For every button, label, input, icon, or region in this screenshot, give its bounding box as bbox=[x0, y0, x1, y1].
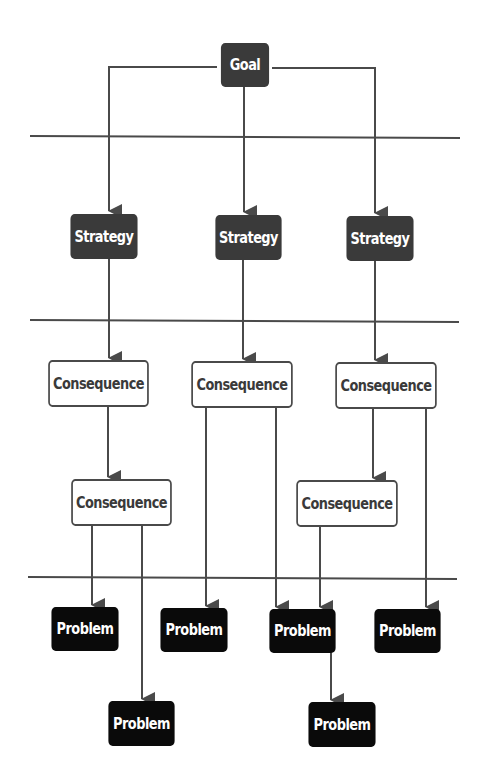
problem-node-1: Problem bbox=[51, 607, 118, 651]
level-separator-2 bbox=[30, 320, 459, 322]
strategy-node-3: Strategy bbox=[346, 216, 413, 261]
consequence-node-3b: Consequence bbox=[296, 480, 397, 527]
problem-node-6: Problem bbox=[308, 702, 375, 747]
problem-node-2: Problem bbox=[160, 608, 227, 652]
problem-node-5: Problem bbox=[108, 701, 174, 746]
problem-node-3: Problem bbox=[269, 609, 335, 653]
consequence-node-1b: Consequence bbox=[71, 479, 172, 526]
consequence-node-2a: Consequence bbox=[191, 361, 292, 408]
strategy-node-2: Strategy bbox=[215, 215, 281, 260]
edge-goal-strategy-3 bbox=[272, 68, 375, 213]
problem-node-4: Problem bbox=[374, 609, 440, 653]
consequence-node-1a: Consequence bbox=[48, 360, 149, 407]
goal-node: Goal bbox=[221, 43, 269, 87]
edge-goal-strategy-1 bbox=[109, 67, 217, 211]
strategy-node-1: Strategy bbox=[70, 214, 137, 259]
consequence-node-3a: Consequence bbox=[335, 362, 436, 409]
